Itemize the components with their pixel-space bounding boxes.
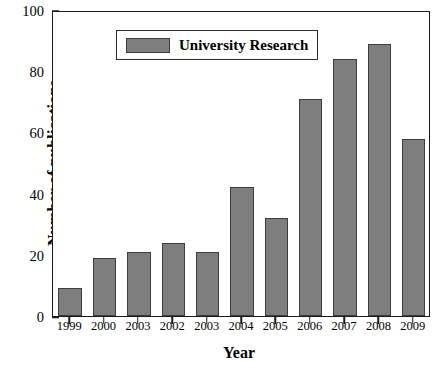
bar: [333, 59, 356, 316]
y-tick-label: 80: [2, 64, 44, 81]
bar: [230, 187, 253, 316]
plot-area: University Research: [52, 11, 430, 317]
bar: [196, 252, 219, 316]
y-tick-label: 20: [2, 247, 44, 264]
y-tick-label: 100: [2, 3, 44, 20]
bar-chart: Number of publications 020406080100 Univ…: [0, 0, 435, 368]
bar: [93, 258, 116, 316]
y-tick-label: 40: [2, 186, 44, 203]
legend-swatch-university-research: [126, 38, 170, 53]
bar: [58, 288, 81, 316]
x-tick-label: 2009: [391, 319, 435, 334]
bar: [368, 44, 391, 316]
x-axis-title: Year: [46, 344, 432, 362]
y-tick-label: 0: [2, 309, 44, 326]
bar: [299, 99, 322, 316]
chart-legend: University Research: [116, 30, 318, 60]
y-tick-label: 60: [2, 125, 44, 142]
bar: [402, 139, 425, 316]
bar: [162, 243, 185, 316]
legend-label-university-research: University Research: [179, 37, 308, 54]
bar: [127, 252, 150, 316]
bar: [265, 218, 288, 316]
